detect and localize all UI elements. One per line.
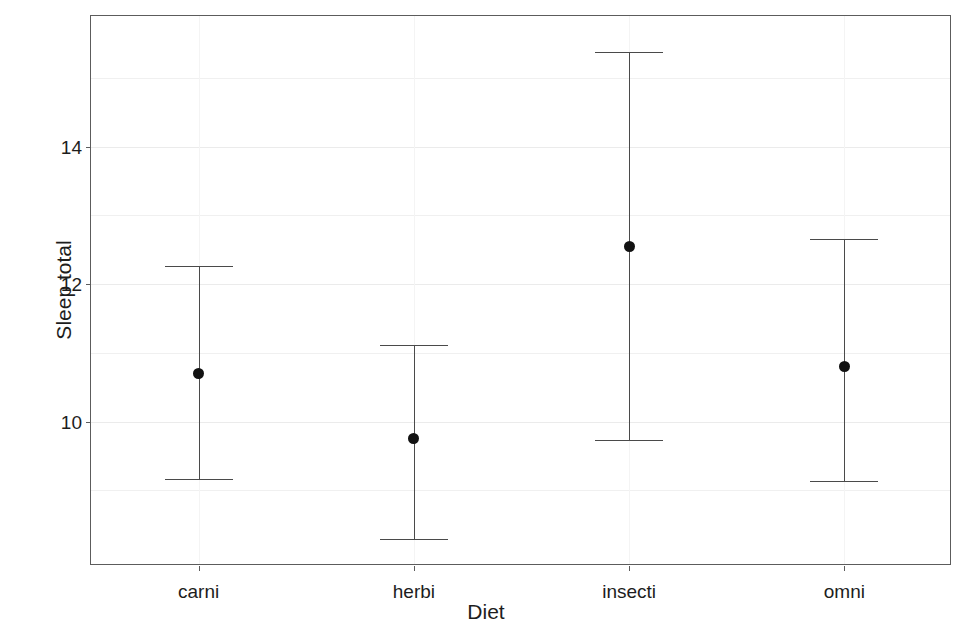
gridline-horizontal: [91, 353, 950, 354]
x-tick-mark: [414, 566, 415, 571]
data-point-omni: [839, 361, 850, 372]
errorbar-cap-upper: [595, 52, 663, 53]
gridline-horizontal: [91, 78, 950, 79]
x-tick-mark: [844, 566, 845, 571]
data-point-insecti: [624, 241, 635, 252]
plot-panel: 101214 carniherbiinsectiomni: [90, 15, 951, 565]
errorbar-cap-upper: [165, 266, 233, 267]
data-point-herbi: [408, 433, 419, 444]
gridline-horizontal: [91, 490, 950, 491]
errorbar-cap-lower: [595, 440, 663, 441]
x-tick-label-omni: omni: [824, 582, 865, 601]
errorbar-cap-lower: [380, 539, 448, 540]
gridline-horizontal: [91, 215, 950, 216]
chart-figure: 101214 carniherbiinsectiomni Sleep total…: [0, 0, 972, 642]
x-tick-label-carni: carni: [178, 582, 219, 601]
y-tick-label: 10: [61, 412, 91, 431]
x-tick-mark: [199, 566, 200, 571]
gridline-horizontal: [91, 284, 950, 285]
y-axis-title: Sleep total: [52, 240, 76, 339]
errorbar-line: [844, 239, 845, 482]
errorbar-cap-lower: [810, 481, 878, 482]
errorbar-cap-lower: [165, 479, 233, 480]
x-tick-mark: [629, 566, 630, 571]
x-tick-label-insecti: insecti: [602, 582, 656, 601]
gridline-horizontal: [91, 422, 950, 423]
gridline-horizontal: [91, 147, 950, 148]
y-tick-label: 14: [61, 137, 91, 156]
data-point-carni: [193, 368, 204, 379]
errorbar-cap-upper: [380, 345, 448, 346]
x-tick-label-herbi: herbi: [393, 582, 435, 601]
errorbar-cap-upper: [810, 239, 878, 240]
x-axis-title: Diet: [0, 600, 972, 624]
